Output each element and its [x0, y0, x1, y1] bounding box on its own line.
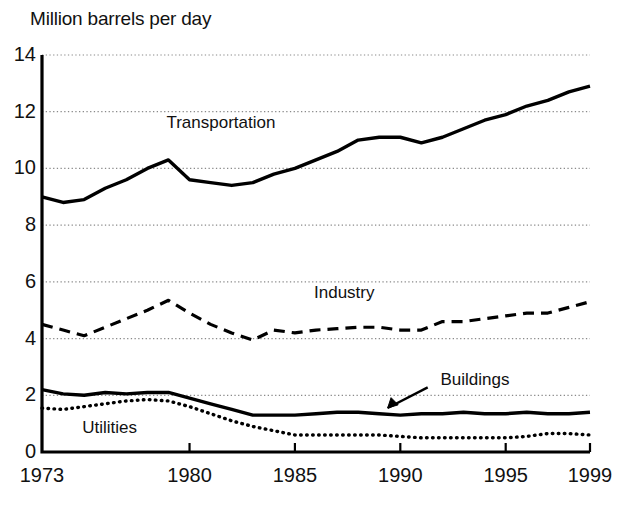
buildings-annotation-arrowhead — [388, 398, 399, 408]
chart-container: Million barrels per day 02468101214 1973… — [0, 0, 629, 511]
series-line-buildings — [42, 390, 590, 416]
plot-area — [0, 0, 629, 511]
series-line-utilities — [42, 400, 590, 438]
series-line-industry — [42, 300, 590, 340]
series-line-transportation — [42, 86, 590, 202]
